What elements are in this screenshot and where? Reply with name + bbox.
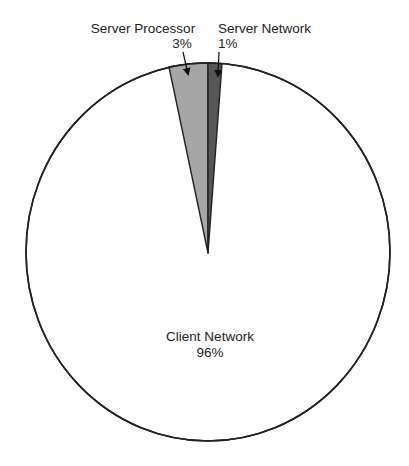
label-server-network-pct: 1% bbox=[218, 36, 238, 51]
label-client-network: Client Network bbox=[166, 329, 254, 344]
label-server-network: Server Network bbox=[218, 21, 311, 36]
label-server-processor: Server Processor bbox=[91, 21, 196, 36]
label-server-processor-pct: 3% bbox=[172, 36, 192, 51]
label-client-network-pct: 96% bbox=[196, 345, 223, 360]
pie-chart: Server Processor 3% Server Network 1% Cl… bbox=[0, 0, 409, 466]
